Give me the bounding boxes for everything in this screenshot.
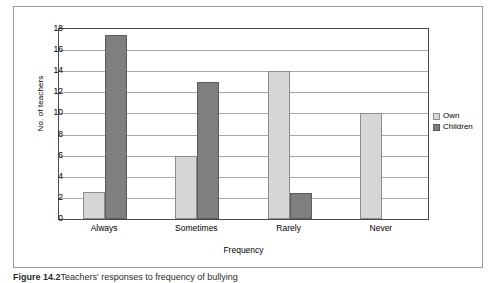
bar-always-own [83, 192, 105, 219]
legend-swatch-icon [433, 124, 440, 131]
y-axis-tick-label: 8 [29, 130, 63, 139]
legend-item: Own [433, 112, 483, 120]
bar-rarely-own [268, 71, 290, 219]
plot-area [58, 28, 429, 220]
legend-item: Children [433, 123, 483, 131]
y-axis-tick-label: 14 [29, 66, 63, 75]
legend-swatch-icon [433, 113, 440, 120]
bar-sometimes-own [175, 156, 197, 219]
legend-label: Children [443, 123, 473, 131]
plot-inner [59, 29, 428, 219]
bar-sometimes-children [197, 82, 219, 219]
y-axis-tick-label: 10 [29, 108, 63, 117]
caption-text: Teachers' responses to frequency of bull… [61, 272, 238, 282]
y-axis-tick-label: 16 [29, 45, 63, 54]
bar-never-own [360, 113, 382, 219]
x-axis-tick-label: Sometimes [151, 224, 241, 233]
bar-rarely-children [290, 193, 312, 219]
y-axis-tick-label: 0 [29, 214, 63, 223]
y-axis-tick-label: 12 [29, 87, 63, 96]
x-axis-tick-label: Never [336, 224, 426, 233]
y-axis-tick-label: 18 [29, 24, 63, 33]
x-axis-title: Frequency [58, 245, 429, 255]
figure-caption: Figure 14.2Teachers' responses to freque… [13, 272, 483, 283]
bar-chart: No. of teachers Frequency OwnChildren 02… [14, 7, 484, 269]
caption-label: Figure 14.2 [13, 272, 61, 282]
x-axis-tick-label: Rarely [244, 224, 334, 233]
y-axis-tick-label: 2 [29, 193, 63, 202]
x-axis-tick-label: Always [59, 224, 149, 233]
figure-frame: No. of teachers Frequency OwnChildren 02… [13, 6, 483, 268]
bar-always-children [105, 35, 127, 219]
chart-legend: OwnChildren [433, 112, 483, 134]
y-axis-tick-label: 4 [29, 172, 63, 181]
legend-label: Own [443, 112, 459, 120]
y-axis-tick-label: 6 [29, 151, 63, 160]
